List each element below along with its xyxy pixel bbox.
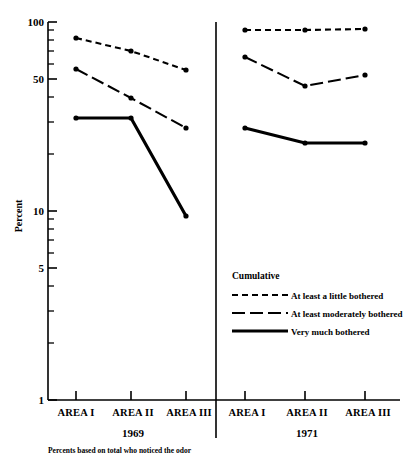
legend-title: Cumulative	[232, 271, 280, 281]
series-at-least-a-little-bothered	[73, 26, 367, 72]
series-little-1969-line	[76, 38, 186, 70]
y-tick-label-50: 50	[33, 73, 45, 85]
data-point	[183, 213, 188, 218]
log-line-chart: 100 50 10 5 1 Percent	[0, 0, 412, 456]
data-point	[183, 67, 188, 72]
series-very-1969-line	[76, 118, 186, 216]
data-point	[128, 115, 133, 120]
y-axis-minor-ticks	[48, 30, 54, 343]
data-point	[242, 27, 247, 32]
data-point	[128, 95, 133, 100]
data-point	[302, 83, 307, 88]
y-axis-title: Percent	[13, 199, 24, 232]
x-tick-label-1971-area-2: AREA II	[286, 407, 327, 418]
x-tick-label-1969-area-2: AREA II	[112, 407, 153, 418]
x-tick-label-1971-area-1: AREA I	[228, 407, 265, 418]
x-tick-label-1969-area-1: AREA I	[57, 407, 94, 418]
legend-label-little: At least a little bothered	[291, 291, 383, 301]
y-tick-label-10: 10	[33, 205, 45, 217]
x-tick-label-1969-area-3: AREA III	[166, 407, 212, 418]
x-tick-label-1971-area-3: AREA III	[345, 407, 391, 418]
x-axis-ticks	[76, 391, 365, 400]
data-point	[362, 72, 367, 77]
group-label-1971: 1971	[296, 427, 318, 439]
y-tick-label-1: 1	[39, 394, 45, 406]
data-point	[73, 115, 78, 120]
data-point	[128, 48, 133, 53]
data-point	[362, 26, 367, 31]
data-point	[302, 140, 307, 145]
legend-label-moderate: At least moderately bothered	[291, 309, 403, 319]
group-label-1969: 1969	[122, 427, 145, 439]
y-tick-label-100: 100	[28, 16, 45, 28]
legend-item-at-least-moderately-bothered: At least moderately bothered	[232, 309, 403, 319]
data-point	[362, 140, 367, 145]
data-point	[73, 35, 78, 40]
chart-footnote: Percents based on total who noticed the …	[48, 446, 192, 455]
legend: Cumulative At least a little bothered At…	[232, 271, 403, 337]
data-point	[302, 27, 307, 32]
chart-container: 100 50 10 5 1 Percent	[0, 0, 412, 456]
y-tick-label-5: 5	[39, 262, 45, 274]
data-point	[183, 125, 188, 130]
legend-item-at-least-a-little-bothered: At least a little bothered	[232, 291, 383, 301]
series-moderate-1971-line	[245, 57, 365, 86]
data-point	[242, 125, 247, 130]
legend-label-very: Very much bothered	[291, 327, 370, 337]
data-point	[242, 54, 247, 59]
series-very-much-bothered	[73, 115, 367, 218]
legend-item-very-much-bothered: Very much bothered	[232, 327, 370, 337]
data-point	[73, 66, 78, 71]
